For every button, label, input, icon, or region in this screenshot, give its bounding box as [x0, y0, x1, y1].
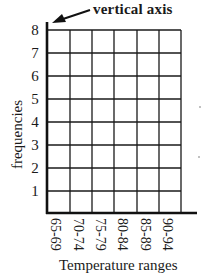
- arrow-icon: [52, 10, 90, 23]
- x-tick-80-84: 80-84: [115, 218, 129, 251]
- vertical-axis-annotation: vertical axis: [93, 1, 173, 18]
- y-tick-6: 6: [29, 69, 41, 84]
- y-tick-2: 2: [29, 161, 41, 176]
- y-tick-1: 1: [29, 184, 41, 199]
- x-tick-90-94: 90-94: [160, 218, 174, 251]
- x-tick-85-89: 85-89: [138, 218, 152, 251]
- y-tick-3: 3: [29, 138, 41, 153]
- x-axis-label: Temperature ranges: [59, 257, 177, 274]
- y-tick-4: 4: [29, 115, 41, 130]
- x-tick-70-74: 70-74: [71, 218, 85, 251]
- y-tick-8: 8: [29, 23, 41, 38]
- y-tick-7: 7: [29, 46, 41, 61]
- y-axis-label: frequencies: [9, 90, 26, 180]
- x-tick-65-69: 65-69: [48, 218, 62, 251]
- y-tick-5: 5: [29, 92, 41, 107]
- x-tick-75-79: 75-79: [93, 218, 107, 251]
